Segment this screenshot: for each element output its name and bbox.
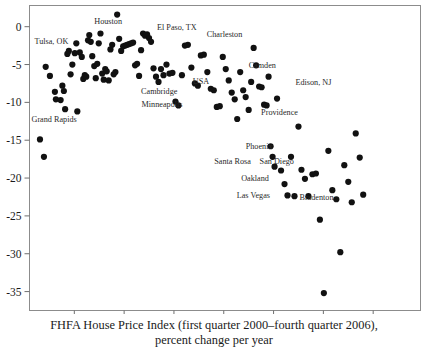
data-point <box>201 52 207 58</box>
point-annotation-label: Las Vegas <box>237 191 270 200</box>
data-point <box>274 95 280 101</box>
data-point <box>295 123 301 129</box>
data-point <box>217 103 223 109</box>
data-point <box>337 249 343 255</box>
data-point <box>109 42 115 48</box>
data-point <box>83 74 89 80</box>
data-point <box>313 170 319 176</box>
data-point <box>138 47 144 53</box>
data-point <box>341 162 347 168</box>
data-point <box>52 89 58 95</box>
point-annotation-label: Camden <box>249 61 276 70</box>
point-annotation-label: Bradenton <box>299 193 333 202</box>
data-point <box>302 176 308 182</box>
data-point <box>104 68 110 74</box>
data-point <box>93 75 99 81</box>
data-point <box>229 89 235 95</box>
data-point <box>86 32 92 38</box>
data-point <box>58 97 64 103</box>
y-axis-tick-label: -20 <box>6 172 22 184</box>
data-point <box>148 39 154 45</box>
data-point <box>106 77 112 83</box>
data-point <box>94 61 100 67</box>
data-point <box>62 106 68 112</box>
data-point <box>248 79 254 85</box>
data-point <box>136 73 142 79</box>
y-axis-tick-label: 0 <box>16 21 22 33</box>
data-point <box>357 155 363 161</box>
data-point <box>353 130 359 136</box>
data-point <box>211 87 217 93</box>
data-point <box>67 71 73 77</box>
data-point <box>89 53 95 59</box>
data-point <box>333 196 339 202</box>
data-point <box>298 167 304 173</box>
data-point <box>169 70 175 76</box>
data-point <box>66 48 72 54</box>
data-point <box>232 96 238 102</box>
data-point <box>321 290 327 296</box>
data-point <box>226 77 232 83</box>
point-annotation-label: Minneapolis <box>142 100 183 109</box>
data-point <box>163 61 169 67</box>
data-point <box>88 39 94 45</box>
data-point <box>265 74 271 80</box>
point-annotation-label: Grand Rapids <box>31 115 76 124</box>
point-annotation-label: Providence <box>261 108 298 117</box>
data-point <box>155 79 161 85</box>
caption-line-1: FHFA House Price Index (first quarter 20… <box>0 318 428 333</box>
y-axis-tick-label: -35 <box>6 286 22 298</box>
data-point <box>130 39 136 45</box>
data-point <box>259 84 265 90</box>
y-axis-tick-label: -30 <box>6 248 22 260</box>
data-point <box>69 61 75 67</box>
data-point <box>360 192 366 198</box>
caption-line-2: percent change per year <box>0 333 428 348</box>
point-annotation-label: Houston <box>94 17 122 26</box>
data-point <box>251 45 257 51</box>
data-point <box>281 181 287 187</box>
data-point <box>220 54 226 60</box>
y-axis-tick-label: -15 <box>6 134 22 146</box>
data-point <box>150 65 156 71</box>
point-annotation-label: Santa Rosa <box>214 157 251 166</box>
figure-caption: FHFA House Price Index (first quarter 20… <box>0 318 428 348</box>
y-axis-tick-label: -10 <box>6 96 22 108</box>
data-point <box>204 69 210 75</box>
data-point <box>179 72 185 78</box>
data-point <box>291 193 297 199</box>
data-point <box>185 42 191 48</box>
figure-container: 0-5-10-15-20-25-30-352468101214HoustonTu… <box>0 0 428 364</box>
data-point <box>325 148 331 154</box>
data-point <box>158 66 164 72</box>
data-point <box>153 74 159 80</box>
data-point <box>37 136 43 142</box>
data-point <box>61 88 67 94</box>
data-point <box>246 107 252 113</box>
y-axis-tick-label: -5 <box>12 59 22 71</box>
data-point <box>134 61 140 67</box>
data-point <box>278 167 284 173</box>
data-point <box>234 116 240 122</box>
data-point <box>349 199 355 205</box>
point-annotation-label: Cambridge <box>141 87 178 96</box>
point-annotation-label: USA <box>193 77 209 86</box>
data-point <box>317 217 323 223</box>
data-point <box>237 69 243 75</box>
point-annotation-label: Tulsa, OK <box>34 37 68 46</box>
data-point <box>223 66 229 72</box>
data-point <box>47 73 53 79</box>
data-point <box>74 108 80 114</box>
data-point <box>97 30 103 36</box>
data-point <box>112 69 118 75</box>
data-point <box>160 72 166 78</box>
data-point <box>79 54 85 60</box>
y-axis-tick-label: -25 <box>6 210 22 222</box>
point-annotation-label: Charleston <box>207 30 242 39</box>
point-annotation-label: El Paso, TX <box>157 23 197 32</box>
data-point <box>73 40 79 46</box>
data-point <box>188 64 194 70</box>
point-annotation-label: Phoenix <box>246 142 273 151</box>
scatter-plot: 0-5-10-15-20-25-30-352468101214HoustonTu… <box>0 0 428 314</box>
data-point <box>96 40 102 46</box>
